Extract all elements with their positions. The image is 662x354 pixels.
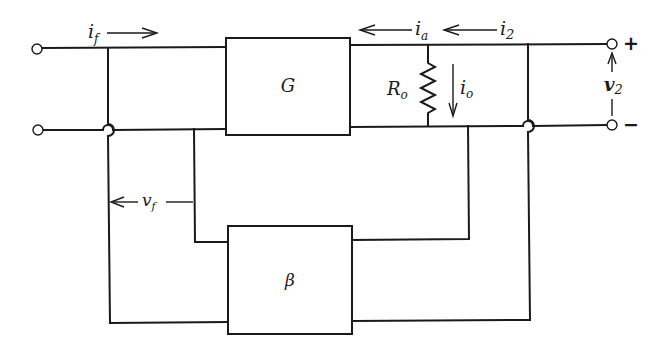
- feedback-circuit-diagram: G β if ia i2 Ro io v2 vf + −: [0, 0, 662, 354]
- plus-sign: +: [623, 32, 639, 54]
- io-arrow-icon: [449, 64, 457, 116]
- ia-label: ia: [415, 17, 428, 43]
- if-label: if: [88, 20, 101, 46]
- left-feedback-wire: [108, 48, 228, 323]
- io-label: io: [460, 76, 473, 101]
- ia-arrow-icon: [360, 25, 412, 35]
- vf-label: vf: [142, 190, 158, 213]
- beta-output-wire: [352, 126, 469, 240]
- output-top-wire: [350, 44, 607, 45]
- input-top-wire: [42, 47, 226, 48]
- i2-arrow-icon: [444, 25, 497, 35]
- input-terminal-top: [32, 44, 42, 54]
- beta-block-label: β: [284, 270, 295, 290]
- v2-label: v2: [604, 74, 623, 97]
- input-terminal-bottom: [33, 125, 43, 135]
- right-feedback-wire: [352, 44, 534, 321]
- resistor-ro: [421, 45, 435, 126]
- ro-label: Ro: [386, 78, 408, 102]
- output-terminal-minus: [607, 120, 617, 130]
- output-bottom-wire: [350, 121, 607, 127]
- beta-input-wire: [194, 129, 228, 242]
- i2-label: i2: [500, 17, 514, 42]
- if-arrow-icon: [107, 28, 157, 38]
- output-terminal-plus: [607, 39, 617, 49]
- g-block-label: G: [281, 75, 295, 96]
- input-bottom-wire: [43, 125, 226, 130]
- minus-sign: −: [623, 113, 639, 135]
